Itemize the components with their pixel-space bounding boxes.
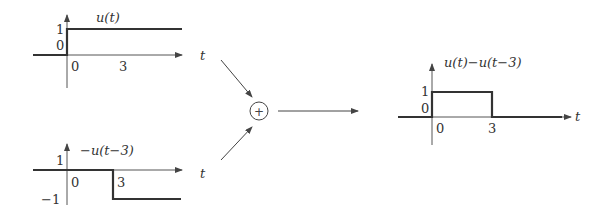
result-ytick-1: 1 bbox=[421, 84, 429, 99]
bottom-xtick-3: 3 bbox=[117, 175, 125, 190]
top-ytick-0: 0 bbox=[56, 38, 64, 53]
result-xtick-3: 3 bbox=[488, 121, 496, 136]
result-t-label: t bbox=[575, 109, 581, 124]
top-xtick-0: 0 bbox=[71, 59, 79, 74]
top-t-label: t bbox=[200, 48, 206, 63]
result-xtick-0: 0 bbox=[436, 121, 444, 136]
arrow-top-to-summer bbox=[221, 60, 252, 97]
bottom-plot-label: −u(t−3) bbox=[80, 143, 134, 158]
top-plot: u(t) 1 0 0 3 bbox=[33, 10, 182, 88]
bottom-xtick-0: 0 bbox=[71, 175, 79, 190]
bottom-ytick-neg1: −1 bbox=[41, 192, 60, 207]
plus-icon: + bbox=[254, 105, 264, 119]
diagram-canvas: u(t) 1 0 0 3 −u(t−3) 1 −1 0 3 t t + u(t)… bbox=[0, 0, 608, 210]
summer-node: + bbox=[250, 102, 268, 120]
arrow-bottom-to-summer bbox=[221, 127, 252, 160]
top-ytick-1: 1 bbox=[56, 22, 64, 37]
bottom-t-label: t bbox=[200, 166, 206, 181]
top-xtick-3: 3 bbox=[119, 59, 127, 74]
result-plot: u(t)−u(t−3) 1 0 0 3 t bbox=[398, 55, 581, 145]
bottom-plot: −u(t−3) 1 −1 0 3 bbox=[33, 143, 182, 207]
top-plot-label: u(t) bbox=[96, 10, 120, 25]
bottom-ytick-1: 1 bbox=[56, 153, 64, 168]
result-plot-label: u(t)−u(t−3) bbox=[444, 55, 522, 70]
result-ytick-0: 0 bbox=[421, 101, 429, 116]
